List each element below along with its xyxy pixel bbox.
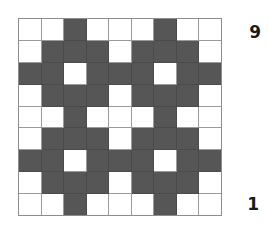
grid-cell-filled[interactable]: [131, 172, 154, 194]
grid-cell-filled[interactable]: [64, 128, 87, 150]
grid-row: [19, 19, 222, 41]
grid-cell-empty[interactable]: [176, 19, 199, 41]
grid-cell-empty[interactable]: [154, 62, 177, 84]
grid-cell-filled[interactable]: [154, 172, 177, 194]
grid-row: [19, 106, 222, 128]
grid-cell-empty[interactable]: [176, 106, 199, 128]
grid-cell-filled[interactable]: [86, 128, 109, 150]
grid-cell-empty[interactable]: [19, 172, 42, 194]
grid-cell-filled[interactable]: [109, 150, 132, 172]
grid-cell-empty[interactable]: [86, 106, 109, 128]
grid-cell-empty[interactable]: [64, 62, 87, 84]
grid-cell-filled[interactable]: [131, 62, 154, 84]
grid-cell-empty[interactable]: [41, 19, 64, 41]
grid-cell-filled[interactable]: [131, 84, 154, 106]
grid-cell-filled[interactable]: [64, 172, 87, 194]
grid-cell-empty[interactable]: [19, 106, 42, 128]
grid-cell-filled[interactable]: [199, 150, 222, 172]
grid-cell-empty[interactable]: [109, 128, 132, 150]
grid-cell-filled[interactable]: [86, 40, 109, 62]
grid-cell-filled[interactable]: [41, 84, 64, 106]
grid-cell-filled[interactable]: [176, 150, 199, 172]
grid-cell-empty[interactable]: [64, 150, 87, 172]
grid-cell-filled[interactable]: [154, 128, 177, 150]
grid-cell-empty[interactable]: [41, 106, 64, 128]
grid-cell-filled[interactable]: [19, 150, 42, 172]
grid-cell-empty[interactable]: [199, 40, 222, 62]
grid-cell-filled[interactable]: [131, 150, 154, 172]
grid-row: [19, 128, 222, 150]
grid-cell-filled[interactable]: [154, 84, 177, 106]
grid-cell-filled[interactable]: [154, 106, 177, 128]
grid-cell-filled[interactable]: [64, 84, 87, 106]
grid-row: [19, 84, 222, 106]
grid-cell-filled[interactable]: [41, 40, 64, 62]
grid-cell-filled[interactable]: [64, 194, 87, 216]
grid-cell-empty[interactable]: [199, 172, 222, 194]
grid-cell-filled[interactable]: [199, 62, 222, 84]
grid-cell-empty[interactable]: [199, 128, 222, 150]
grid-row: [19, 150, 222, 172]
grid-row: [19, 172, 222, 194]
figure-canvas: 9 1: [0, 0, 269, 233]
grid-cell-empty[interactable]: [19, 194, 42, 216]
axis-label-bottom: 1: [247, 196, 259, 213]
grid-cell-empty[interactable]: [199, 106, 222, 128]
grid-cell-filled[interactable]: [154, 40, 177, 62]
grid-cell-empty[interactable]: [131, 106, 154, 128]
grid-cell-empty[interactable]: [199, 194, 222, 216]
pattern-grid: [18, 18, 222, 216]
grid-cell-filled[interactable]: [41, 128, 64, 150]
grid-cell-empty[interactable]: [86, 194, 109, 216]
grid-cell-filled[interactable]: [41, 172, 64, 194]
grid-row: [19, 194, 222, 216]
grid-cell-filled[interactable]: [86, 62, 109, 84]
grid-cell-empty[interactable]: [19, 128, 42, 150]
grid-cell-filled[interactable]: [176, 128, 199, 150]
grid-row: [19, 40, 222, 62]
grid-cell-empty[interactable]: [19, 40, 42, 62]
grid-row: [19, 62, 222, 84]
grid-cell-empty[interactable]: [109, 84, 132, 106]
grid-cell-filled[interactable]: [176, 40, 199, 62]
grid-cell-empty[interactable]: [199, 19, 222, 41]
grid-cell-empty[interactable]: [154, 150, 177, 172]
grid-cell-empty[interactable]: [109, 40, 132, 62]
grid-cell-filled[interactable]: [64, 19, 87, 41]
grid-cell-filled[interactable]: [176, 84, 199, 106]
grid-cell-filled[interactable]: [86, 172, 109, 194]
grid-table: [18, 18, 222, 216]
grid-cell-filled[interactable]: [154, 19, 177, 41]
grid-cell-empty[interactable]: [109, 194, 132, 216]
grid-cell-filled[interactable]: [41, 150, 64, 172]
grid-cell-filled[interactable]: [64, 106, 87, 128]
grid-cell-empty[interactable]: [19, 19, 42, 41]
grid-cell-filled[interactable]: [109, 62, 132, 84]
grid-cell-empty[interactable]: [86, 19, 109, 41]
grid-cell-empty[interactable]: [131, 19, 154, 41]
grid-cell-empty[interactable]: [176, 194, 199, 216]
grid-cell-empty[interactable]: [131, 194, 154, 216]
grid-cell-filled[interactable]: [86, 84, 109, 106]
grid-cell-filled[interactable]: [41, 62, 64, 84]
grid-cell-empty[interactable]: [19, 84, 42, 106]
grid-cell-filled[interactable]: [131, 128, 154, 150]
axis-label-top: 9: [249, 24, 261, 41]
grid-cell-filled[interactable]: [154, 194, 177, 216]
grid-body: [19, 19, 222, 216]
grid-cell-empty[interactable]: [109, 106, 132, 128]
grid-cell-filled[interactable]: [19, 62, 42, 84]
grid-cell-empty[interactable]: [109, 19, 132, 41]
grid-cell-filled[interactable]: [176, 62, 199, 84]
grid-cell-filled[interactable]: [86, 150, 109, 172]
grid-cell-empty[interactable]: [199, 84, 222, 106]
grid-cell-empty[interactable]: [41, 194, 64, 216]
grid-cell-empty[interactable]: [109, 172, 132, 194]
grid-cell-filled[interactable]: [131, 40, 154, 62]
grid-cell-filled[interactable]: [176, 172, 199, 194]
grid-cell-filled[interactable]: [64, 40, 87, 62]
